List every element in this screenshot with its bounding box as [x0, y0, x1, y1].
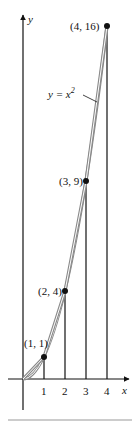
x-tick-1: 1: [41, 385, 47, 397]
point-1-1: [41, 354, 47, 360]
point-label-1-1: (1, 1): [24, 337, 48, 350]
x-tick-3: 3: [83, 385, 89, 397]
point-4-16: [104, 23, 110, 29]
curve-label: y = x2: [47, 86, 75, 100]
parabola-figure: (1, 1) (2, 4) (3, 9) (4, 16) y = x2 y x …: [0, 0, 139, 424]
point-3-9: [83, 178, 89, 184]
point-2-4: [62, 288, 68, 294]
point-label-4-16: (4, 16): [70, 20, 100, 33]
point-label-2-4: (2, 4): [38, 285, 62, 298]
x-axis-label: x: [121, 384, 127, 396]
curve-label-leader: [83, 95, 97, 102]
y-axis-label: y: [27, 13, 33, 25]
point-label-3-9: (3, 9): [59, 175, 83, 188]
x-tick-4: 4: [104, 385, 110, 397]
x-tick-2: 2: [62, 385, 68, 397]
